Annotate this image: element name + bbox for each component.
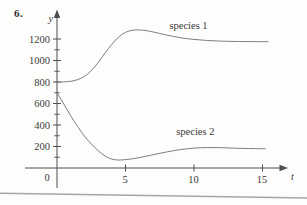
y-tick-label: 1200 <box>29 34 50 45</box>
species-population-chart: 20040060080010001200510150ytspecies 1spe… <box>0 0 307 205</box>
y-tick-label: 400 <box>34 120 50 131</box>
series-curve-species-2 <box>57 93 265 160</box>
origin-label: 0 <box>44 172 49 183</box>
y-axis-title: y <box>48 13 54 24</box>
x-tick-label: 5 <box>122 174 127 185</box>
page-rule-line <box>0 193 307 198</box>
x-axis-title: t <box>291 171 294 182</box>
y-tick-label: 1000 <box>29 55 50 66</box>
series-curve-species-1 <box>57 30 268 82</box>
x-tick-label: 15 <box>257 174 268 185</box>
y-axis-arrowhead <box>54 10 60 19</box>
series-label-species-1: species 1 <box>169 20 207 31</box>
x-tick-label: 10 <box>188 174 199 185</box>
y-tick-label: 600 <box>34 98 50 109</box>
y-tick-label: 800 <box>34 77 50 88</box>
series-label-species-2: species 2 <box>176 126 214 137</box>
x-axis-arrowhead <box>280 165 289 171</box>
textbook-figure-page: 6. 20040060080010001200510150ytspecies 1… <box>0 0 307 205</box>
y-tick-label: 200 <box>34 141 50 152</box>
